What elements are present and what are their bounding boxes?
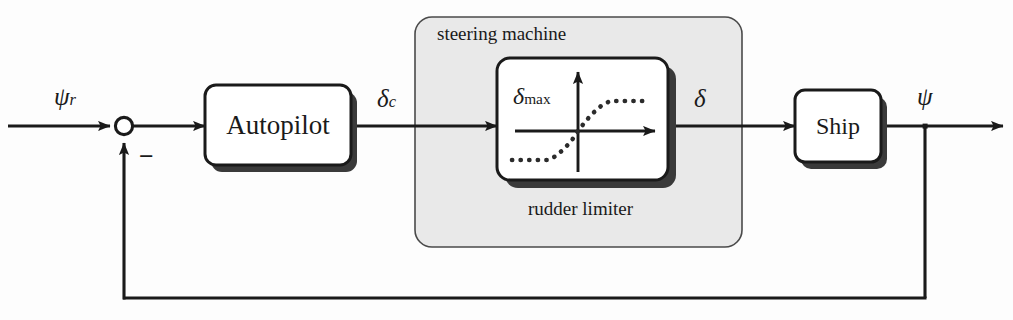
ship-block-label: Ship [795, 90, 881, 162]
signal-label-reference-heading: ψr [54, 84, 76, 109]
summing-junction-negative-sign: − [139, 144, 154, 170]
signal-label-commanded-rudder: δc [377, 86, 396, 111]
signal-label-heading-output: ψ [917, 84, 933, 109]
steering-machine-container-label: steering machine [437, 24, 566, 43]
rudder-limiter-caption: rudder limiter [528, 199, 633, 218]
signal-label-rudder-angle: δ [694, 86, 706, 111]
saturation-limit-label: δmax [513, 84, 551, 108]
rudder-limiter-block [497, 58, 676, 188]
block-diagram-figure: ψr − Autopilot δc steering machine δmax … [0, 0, 1013, 320]
summing-junction [115, 117, 132, 134]
autopilot-block-label: Autopilot [205, 85, 351, 165]
feedback-takeoff-point [923, 124, 928, 129]
